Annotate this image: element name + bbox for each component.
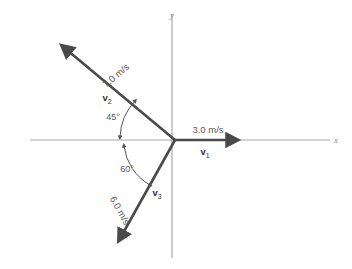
vector-v2-label: v2 — [102, 92, 111, 105]
vector-v3-magnitude-label: 6.0 m/s — [108, 194, 133, 227]
vector-v3: 6.0 m/s v3 — [108, 140, 175, 235]
vector-v1-magnitude-label: 3.0 m/s — [192, 124, 223, 135]
velocity-vector-diagram: x y 3.0 m/s v1 7.0 m/s v2 6.0 m/s v3 45° — [0, 0, 352, 269]
angle-60-label: 60° — [120, 164, 134, 174]
coordinate-axes: x y — [30, 10, 338, 258]
y-axis-label: y — [169, 10, 174, 20]
vector-v1-label: v1 — [200, 146, 209, 159]
vector-v1-subscript: 1 — [206, 152, 210, 159]
vector-v3-label: v3 — [152, 187, 161, 200]
angle-marker-60: 60° — [120, 146, 150, 185]
x-axis-label: x — [333, 135, 338, 145]
angle-marker-45: 45° — [106, 101, 135, 137]
vector-v3-subscript: 3 — [158, 193, 162, 200]
vector-v1: 3.0 m/s v1 — [175, 124, 231, 159]
vector-v2-magnitude-label: 7.0 m/s — [100, 61, 131, 90]
vector-v2-subscript: 2 — [108, 98, 112, 105]
angle-45-label: 45° — [106, 112, 120, 122]
